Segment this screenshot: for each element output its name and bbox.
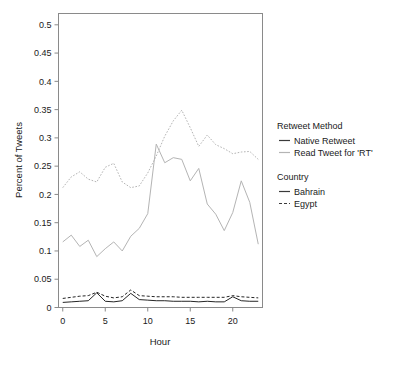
x-axis-title: Hour (150, 336, 171, 347)
legend-group-title-country: Country (277, 172, 309, 182)
x-tick-label: 0 (60, 316, 65, 326)
y-axis-title: Percent of Tweets (13, 122, 24, 198)
y-tick-label: 0.1 (39, 246, 52, 256)
y-tick-label: 0.2 (39, 190, 52, 200)
x-tick-label: 15 (185, 316, 195, 326)
y-tick-label: 0.45 (34, 48, 52, 58)
y-tick-label: 0.5 (39, 20, 52, 30)
x-tick-label: 10 (143, 316, 153, 326)
y-tick-label: 0.15 (34, 218, 52, 228)
x-tick-label: 20 (228, 316, 238, 326)
y-tick-label: 0.25 (34, 161, 52, 171)
y-tick-label: 0.4 (39, 77, 52, 87)
y-tick-label: 0.35 (34, 105, 52, 115)
figure-background (0, 0, 397, 365)
legend-label-egypt: Egypt (294, 199, 318, 209)
y-tick-label: 0 (46, 303, 51, 313)
legend-label-read-tweet-for-rt: Read Tweet for 'RT' (294, 148, 373, 158)
x-tick-label: 5 (103, 316, 108, 326)
legend-label-bahrain: Bahrain (294, 187, 325, 197)
legend-group-title-retweet-method: Retweet Method (277, 121, 343, 131)
y-tick-label: 0.05 (34, 274, 52, 284)
legend-label-native-retweet: Native Retweet (294, 136, 356, 146)
y-tick-label: 0.3 (39, 133, 52, 143)
chart-figure: 00.050.10.150.20.250.30.350.40.450.5 051… (0, 0, 397, 365)
